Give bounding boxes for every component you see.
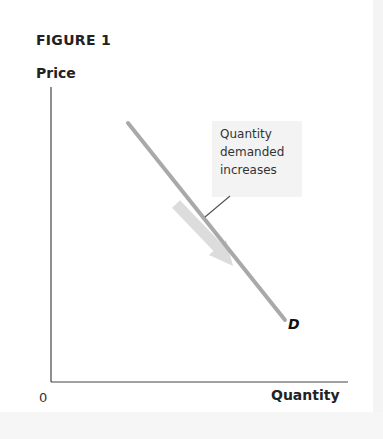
demand-curve — [128, 123, 285, 320]
movement-arrow-icon — [176, 204, 233, 266]
curve-label-d: D — [288, 316, 300, 332]
x-axis-label: Quantity — [271, 387, 340, 403]
annotation-leader-line — [205, 196, 230, 217]
origin-label: 0 — [39, 390, 47, 405]
plot-area — [0, 0, 383, 439]
